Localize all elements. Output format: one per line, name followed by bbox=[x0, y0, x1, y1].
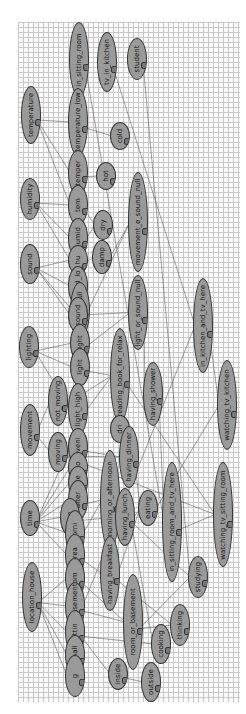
port-handle[interactable] bbox=[176, 529, 182, 536]
edge-location_house-to-in_basement bbox=[38, 603, 67, 607]
node-in-kitchen-and-tv-here[interactable]: in_kitchen_and_tv_here bbox=[193, 278, 213, 373]
edge-temperature-to-temperature_high bbox=[37, 120, 70, 205]
node-label: light_or_sound_null bbox=[134, 279, 142, 346]
node-cold[interactable]: cold bbox=[110, 122, 130, 150]
node-not-moving[interactable]: not_moving bbox=[48, 376, 68, 426]
edge-location_house-to-sitting_room bbox=[38, 603, 67, 633]
node-reading-book-for-relax[interactable]: reading_book_for_relax bbox=[110, 328, 130, 423]
node-time[interactable]: time bbox=[20, 500, 40, 536]
node-temperature-low[interactable]: temperature_low bbox=[68, 88, 88, 156]
node-light-or-sound-null[interactable]: light_or_sound_null bbox=[128, 275, 148, 350]
node-label: light_high bbox=[74, 392, 82, 426]
edge-light_med-to-reading_book_for_relax bbox=[86, 371, 112, 376]
port-handle[interactable] bbox=[137, 628, 143, 635]
node-garage[interactable]: g bbox=[65, 655, 85, 697]
node-tv-in-kitchen[interactable]: tv_in_kitchen bbox=[97, 32, 117, 92]
node-having-breakfast[interactable]: having_breakfast bbox=[100, 536, 120, 611]
edge-tv_in_kitchen-to-in_kitchen_and_tv_here bbox=[113, 67, 195, 326]
port-handle[interactable] bbox=[83, 64, 89, 71]
node-movement-e-sound-null[interactable]: movement_e_sound_null bbox=[128, 172, 148, 272]
node-label: cooking bbox=[157, 630, 165, 657]
edge-temperature-to-temperature_med bbox=[37, 120, 70, 173]
node-movement[interactable]: movement bbox=[20, 404, 40, 456]
node-label: in_sitting_room_and_tv_here bbox=[168, 472, 176, 572]
port-handle[interactable] bbox=[35, 119, 41, 126]
node-humidity[interactable]: humidity bbox=[20, 178, 40, 220]
node-dry[interactable]: dry bbox=[93, 210, 113, 240]
node-temperature[interactable]: temperature bbox=[21, 86, 41, 144]
node-label: location_house bbox=[28, 571, 36, 623]
port-handle[interactable] bbox=[231, 411, 237, 418]
edge-lighting-to-light_low bbox=[35, 343, 72, 351]
node-in-sitting-room[interactable]: in_sitting_room bbox=[69, 22, 89, 97]
node-label: lighting bbox=[25, 334, 33, 360]
node-lighting[interactable]: lighting bbox=[19, 326, 39, 368]
node-label: hu bbox=[74, 256, 82, 265]
edge-location_house-to-room bbox=[38, 578, 67, 603]
edge-sound-to-humidity_low bbox=[36, 260, 70, 268]
edge-sound-to-sound_low bbox=[36, 268, 70, 286]
node-hot[interactable]: hot bbox=[96, 162, 116, 190]
node-label: tv_in_kitchen bbox=[103, 39, 111, 85]
node-label: having_shower bbox=[149, 368, 157, 420]
edge-light_high-to-reading_book_for_relax bbox=[84, 376, 112, 414]
port-handle[interactable] bbox=[142, 228, 148, 235]
node-sound[interactable]: sound bbox=[20, 244, 40, 284]
node-label: light bbox=[76, 359, 84, 375]
port-handle[interactable] bbox=[133, 461, 139, 468]
node-label: room_or_basement bbox=[129, 588, 137, 655]
node-label: in_kitchen_and_tv_here bbox=[199, 285, 207, 367]
edge-sound-to-sound_high bbox=[36, 268, 70, 315]
node-label: watching_tv_sitting_room bbox=[219, 470, 227, 559]
port-handle[interactable] bbox=[114, 578, 120, 585]
node-having-lunch[interactable]: having_lunch bbox=[115, 488, 135, 546]
node-light-med[interactable]: light bbox=[70, 348, 90, 386]
port-handle[interactable] bbox=[207, 331, 213, 338]
port-handle[interactable] bbox=[129, 521, 135, 528]
node-eating[interactable]: eating bbox=[138, 490, 158, 526]
node-label: having_breakfast bbox=[106, 543, 114, 603]
node-label: dry bbox=[99, 219, 107, 230]
node-room-or-basement[interactable]: room_or_basement bbox=[123, 574, 143, 670]
node-watching-tv-kitchen[interactable]: watching_tv_kitchen bbox=[217, 360, 237, 450]
node-damp[interactable]: damp bbox=[92, 240, 112, 274]
node-moving[interactable]: moving bbox=[48, 432, 68, 472]
port-handle[interactable] bbox=[157, 398, 163, 405]
node-watching-tv-sitting-room[interactable]: watching_tv_sitting_room bbox=[213, 462, 233, 567]
node-location-house[interactable]: location_house bbox=[22, 562, 42, 632]
node-label: sound bbox=[74, 304, 82, 325]
node-cooking[interactable]: cooking bbox=[151, 624, 171, 664]
port-handle[interactable] bbox=[82, 126, 88, 133]
node-label: temperature bbox=[27, 93, 35, 137]
edge-temperature_low-to-cold bbox=[84, 127, 112, 136]
node-student[interactable]: student bbox=[127, 38, 147, 80]
port-handle[interactable] bbox=[111, 66, 117, 73]
port-handle[interactable] bbox=[142, 317, 148, 324]
edge-location_house-to-small bbox=[38, 603, 67, 656]
node-inside[interactable]: inside bbox=[108, 658, 128, 690]
node-thinking[interactable]: thinking bbox=[170, 604, 190, 646]
node-having-dinner[interactable]: having_dinner bbox=[119, 426, 139, 488]
node-studying[interactable]: studying bbox=[188, 556, 208, 598]
node-label: inside bbox=[114, 664, 122, 685]
node-label: having_lunch bbox=[121, 494, 129, 540]
node-having-shower[interactable]: having_shower bbox=[143, 362, 163, 426]
node-label: not_moving bbox=[54, 380, 62, 421]
edge-sound_null-to-light_or_sound_null bbox=[86, 313, 130, 315]
node-label: morning_or_afternoon bbox=[106, 461, 114, 538]
edge-evening-to-having_dinner bbox=[84, 451, 121, 457]
port-handle[interactable] bbox=[227, 521, 233, 528]
port-handle[interactable] bbox=[34, 434, 40, 441]
node-label: watching_tv_kitchen bbox=[223, 369, 231, 441]
node-label: cold bbox=[116, 129, 124, 144]
port-handle[interactable] bbox=[36, 602, 42, 609]
node-in-sitting-room-and-tv-here[interactable]: in_sitting_room_and_tv_here bbox=[162, 462, 182, 582]
port-handle[interactable] bbox=[82, 176, 88, 183]
node-label: movement bbox=[26, 411, 34, 449]
port-handle[interactable] bbox=[82, 413, 88, 420]
port-handle[interactable] bbox=[124, 381, 130, 388]
node-label: thinking bbox=[176, 611, 184, 639]
node-label: having_dinner bbox=[125, 432, 133, 482]
edge-sitting_room-to-inside bbox=[81, 636, 110, 674]
node-outside[interactable]: outside bbox=[141, 662, 161, 702]
